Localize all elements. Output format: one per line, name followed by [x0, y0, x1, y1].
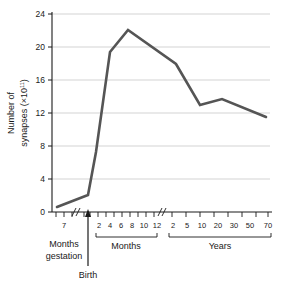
x-tick-label-month-6: 6 [119, 221, 123, 230]
x-tick-label-year-70: 70 [264, 221, 272, 230]
x-tick-label-year-10: 10 [198, 221, 206, 230]
y-axis-title-line2: synapses (×1011) [19, 79, 30, 147]
y-axis-title-base: synapses (×10 [19, 88, 29, 147]
chart-svg: 24 20 16 12 8 4 0 Number of synapses (×1… [0, 0, 297, 285]
y-tick-label-20: 20 [36, 42, 46, 52]
birth-marker: Birth [79, 209, 98, 280]
x-tick-label-month-10: 10 [140, 221, 148, 230]
x-tick-label-year-30: 30 [230, 221, 238, 230]
x-tick-label-month-2: 2 [97, 221, 101, 230]
months-group-bracket [96, 233, 157, 237]
y-tick-label-8: 8 [40, 141, 45, 151]
synapse-density-chart: 24 20 16 12 8 4 0 Number of synapses (×1… [0, 0, 297, 285]
y-tick-label-0: 0 [40, 207, 45, 217]
y-tick-label-12: 12 [36, 108, 46, 118]
x-tick-label-year-20: 20 [214, 221, 222, 230]
x-tick-label-month-4: 4 [108, 221, 112, 230]
x-tick-label-month-8: 8 [130, 221, 134, 230]
months-group-label: Months [111, 241, 141, 251]
years-group-label: Years [209, 241, 232, 251]
gestation-group-label-line1: Months [49, 239, 79, 249]
y-axis-title: Number of synapses (×1011) [6, 79, 29, 147]
x-tick-label-month-12: 12 [153, 221, 161, 230]
x-tick-label-year-50: 50 [246, 221, 254, 230]
x-tick-label-year-5: 5 [185, 221, 189, 230]
years-group-bracket [169, 233, 271, 237]
x-tick-marks-months [98, 212, 154, 217]
y-tick-marks [48, 14, 52, 212]
x-tick-marks-years [172, 212, 268, 217]
y-tick-label-16: 16 [36, 75, 46, 85]
x-tick-label-year-2: 2 [171, 221, 175, 230]
x-tick-label-gestation-7: 7 [62, 221, 66, 230]
gestation-group-label-line2: gestation [46, 251, 83, 261]
y-tick-label-4: 4 [40, 174, 45, 184]
y-axis-title-line1: Number of [6, 92, 16, 135]
birth-label: Birth [79, 270, 98, 280]
y-tick-label-24: 24 [36, 9, 46, 19]
y-axis-title-close: ) [19, 79, 29, 82]
